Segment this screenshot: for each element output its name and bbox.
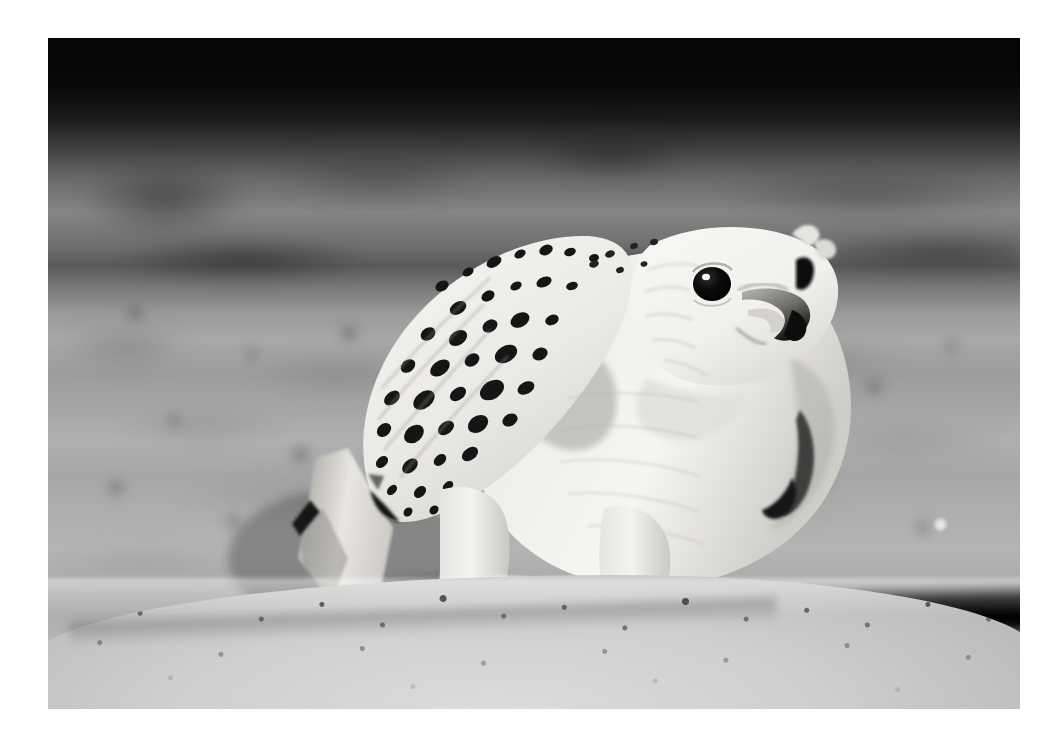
page-canvas	[0, 0, 1061, 741]
foreground-sand	[48, 575, 1020, 709]
photograph	[48, 38, 1020, 709]
